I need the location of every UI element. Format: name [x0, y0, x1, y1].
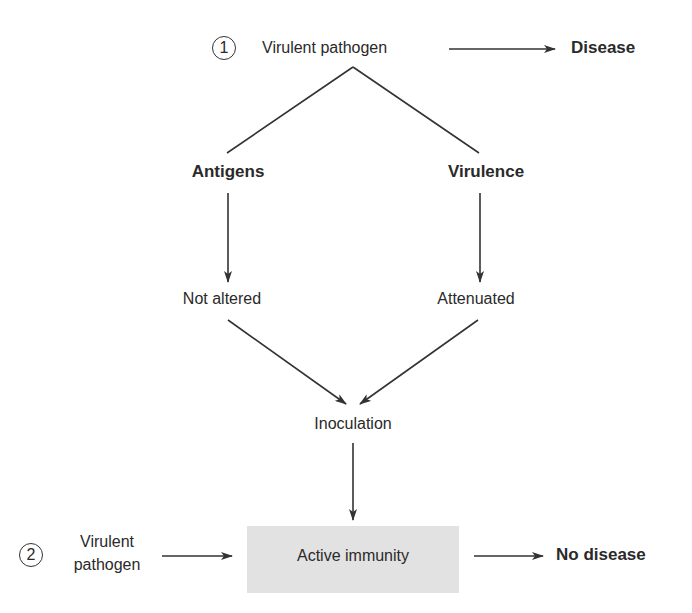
- branch-line-right: [353, 67, 479, 153]
- virulence-label: Virulence: [448, 162, 524, 182]
- arrow-not-altered-to-inoculation: [228, 320, 346, 404]
- step-1-number: 1: [220, 39, 229, 56]
- no-disease-label: No disease: [556, 545, 646, 565]
- step-2-number: 2: [27, 546, 36, 563]
- attenuated-label: Attenuated: [437, 290, 514, 308]
- active-immunity-label: Active immunity: [297, 547, 409, 565]
- inoculation-label: Inoculation: [314, 415, 391, 433]
- branch-line-left: [227, 67, 353, 153]
- virulent-pathogen-2-line1: Virulent: [80, 533, 134, 551]
- virulent-pathogen-label: Virulent pathogen: [262, 39, 387, 57]
- step-1-circle: 1: [212, 36, 236, 60]
- antigens-label: Antigens: [192, 162, 265, 182]
- not-altered-label: Not altered: [183, 290, 261, 308]
- disease-label: Disease: [571, 38, 635, 58]
- arrow-attenuated-to-inoculation: [360, 320, 478, 404]
- step-2-circle: 2: [19, 543, 43, 567]
- virulent-pathogen-2-line2: pathogen: [74, 556, 141, 574]
- connector-lines: [0, 0, 692, 613]
